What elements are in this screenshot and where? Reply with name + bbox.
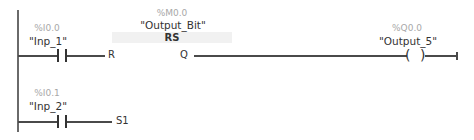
contact-1-tag[interactable]: "Inp_1" [17, 35, 79, 47]
contact-1-address: %I0.0 [22, 23, 72, 33]
rs-pin-q: Q [180, 49, 188, 60]
rs-block-tag[interactable]: "Output_Bit" [132, 19, 214, 31]
wire [18, 55, 57, 57]
contact-2-address: %I0.1 [22, 88, 72, 98]
left-power-rail [17, 10, 19, 132]
wire [194, 55, 407, 57]
wire [67, 55, 105, 57]
wire [67, 121, 112, 123]
contact-2-tag[interactable]: "Inp_2" [17, 100, 79, 112]
rs-block-type[interactable]: RS [152, 32, 192, 43]
rs-block-address: %M0.0 [147, 8, 197, 18]
wire [18, 121, 57, 123]
coil-tag[interactable]: "Output_5" [372, 35, 444, 47]
rs-pin-s1: S1 [116, 115, 129, 126]
wire [425, 55, 457, 57]
coil-address: %Q0.0 [382, 23, 432, 33]
rs-pin-r: R [108, 49, 115, 60]
rung-end-marker [456, 52, 458, 60]
